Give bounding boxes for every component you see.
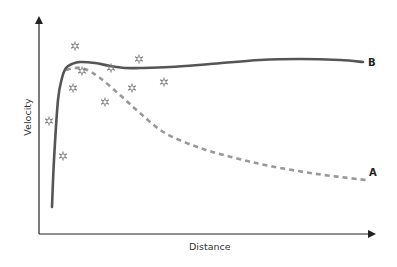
series-b-label: B bbox=[368, 57, 376, 68]
x-axis-label: Distance bbox=[189, 241, 231, 252]
star-marker-icon bbox=[128, 84, 136, 93]
star-marker-icon bbox=[45, 117, 53, 126]
scatter-star-markers bbox=[45, 42, 168, 161]
star-marker-icon bbox=[59, 152, 67, 161]
series-b-solid-line bbox=[52, 59, 363, 207]
star-marker-icon bbox=[71, 42, 79, 51]
chart-canvas bbox=[0, 0, 397, 267]
y-axis-label: Velocity bbox=[22, 98, 33, 135]
star-marker-icon bbox=[101, 98, 109, 107]
series-a-dashed-line bbox=[66, 68, 366, 180]
star-marker-icon bbox=[135, 55, 143, 64]
star-marker-icon bbox=[69, 84, 77, 93]
series-a-label: A bbox=[369, 167, 377, 178]
star-marker-icon bbox=[160, 78, 168, 87]
